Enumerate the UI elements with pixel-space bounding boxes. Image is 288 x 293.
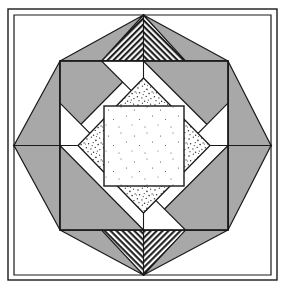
figure-root (0, 0, 288, 293)
center-white-square (104, 106, 184, 186)
caption-strip (0, 285, 288, 293)
quilt-block-diagram (0, 0, 288, 293)
